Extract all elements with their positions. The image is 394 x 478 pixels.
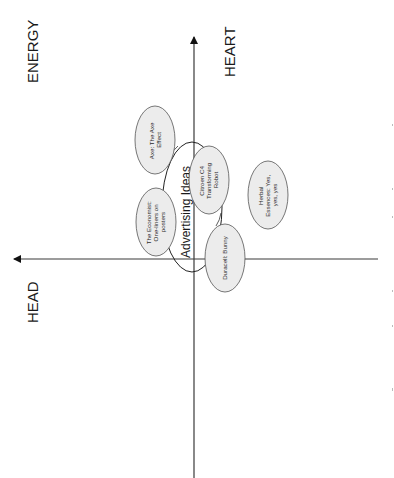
bubble-citroen-line-2: Transforming — [205, 162, 212, 199]
bubble-economist-line-3: posters — [159, 212, 166, 232]
connector-citroen-duracell — [216, 213, 221, 226]
bubble-axe: Axe: The Axe Effect — [135, 106, 175, 174]
bubble-economist-line-2: One-liners on — [152, 204, 159, 242]
heart-label: HEART — [221, 26, 238, 77]
bubble-citroen: Citroen C4 Transforming Robot — [189, 146, 229, 214]
svg-text:Duracell: Bunny: Duracell: Bunny — [221, 235, 228, 280]
quadrant-diagram: ENERGY HEART HEAD Advertising Ideas Axe:… — [0, 0, 394, 478]
bubble-citroen-line-1: Citroen C4 — [198, 166, 205, 196]
bubble-economist-line-1: The Economist: — [145, 201, 152, 244]
head-label: HEAD — [24, 281, 41, 323]
bubble-axe-line-1: Axe: The Axe — [148, 122, 155, 159]
edge-marks — [392, 124, 393, 391]
bubble-herbal-line-3: yes, yes — [271, 184, 278, 207]
energy-label: ENERGY — [24, 20, 41, 83]
bubble-economist: The Economist: One-liners on posters — [136, 188, 176, 256]
bubble-herbal-line-2: Essences: Yes, — [264, 175, 271, 217]
bubble-duracell: Duracell: Bunny — [205, 224, 245, 292]
bubble-duracell-line-1: Duracell: Bunny — [221, 235, 228, 280]
bubble-herbal-line-1: Herbal — [257, 187, 264, 205]
bubble-citroen-line-3: Robot — [212, 171, 219, 188]
bubble-axe-line-2: Effect — [155, 132, 162, 148]
bubble-herbal: Herbal Essences: Yes, yes, yes — [248, 161, 288, 229]
